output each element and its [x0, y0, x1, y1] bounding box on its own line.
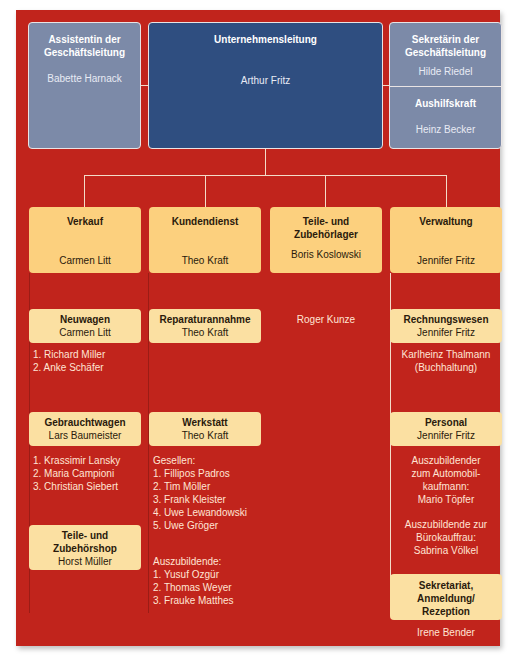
hr-title: Personal — [390, 416, 502, 429]
staff-item: 5. Uwe Gröger — [153, 519, 247, 532]
parts-warehouse-name: Boris Koslowski — [270, 248, 382, 261]
parts-shop-name: Horst Müller — [29, 555, 141, 568]
hr-apprentice-1: Auszubildender zum Automobil- kaufmann: … — [390, 454, 502, 506]
management-box[interactable]: Unternehmensleitung Arthur Fritz — [148, 22, 383, 149]
service-box[interactable]: Kundendienst Theo Kraft — [149, 207, 261, 273]
staff-item: 2. Tim Möller — [153, 480, 247, 493]
parts-warehouse-title-line1: Teile- und — [270, 215, 382, 228]
staff-item: 2. Maria Campioni — [33, 467, 120, 480]
secretary-box: Sekretärin der Geschäftsleitung Hilde Ri… — [389, 22, 502, 149]
secretariat-title-line1: Sekretariat, — [390, 579, 502, 592]
parts-shop-title-line1: Teile- und — [29, 529, 141, 542]
connector-management-down — [265, 148, 266, 175]
text-line: Auszubildende zur — [390, 518, 502, 531]
staff-item: 3. Christian Siebert — [33, 480, 120, 493]
hr-apprentice-2: Auszubildende zur Bürokauffrau: Sabrina … — [390, 518, 502, 557]
connector-sales — [84, 175, 85, 207]
administration-name: Jennifer Fritz — [390, 254, 502, 267]
text-line: Mario Töpfer — [390, 493, 502, 506]
workshop-apprentices: Auszubildende: 1. Yusuf Ozgür 2. Thomas … — [153, 555, 234, 607]
parts-shop-title-line2: Zubehörshop — [29, 542, 141, 555]
accounting-name: Jennifer Fritz — [390, 326, 502, 339]
new-cars-title: Neuwagen — [29, 313, 141, 326]
journeymen-label: Gesellen: — [153, 454, 247, 467]
accounting-staff: Karlheinz Thalmann (Buchhaltung) — [390, 348, 502, 374]
connector-horizontal-departments — [84, 175, 447, 176]
text-line: kaufmann: — [390, 480, 502, 493]
sales-box[interactable]: Verkauf Carmen Litt — [29, 207, 141, 273]
parts-warehouse-box[interactable]: Teile- und Zubehörlager Boris Koslowski — [270, 207, 382, 273]
staff-item: 4. Uwe Lewandowski — [153, 506, 247, 519]
temp-name: Heinz Becker — [390, 123, 501, 136]
used-cars-staff: 1. Krassimir Lansky 2. Maria Campioni 3.… — [33, 454, 120, 493]
used-cars-title: Gebrauchtwagen — [29, 416, 141, 429]
staff-item: 1. Krassimir Lansky — [33, 454, 120, 467]
accounting-title: Rechnungswesen — [390, 313, 502, 326]
new-cars-box[interactable]: Neuwagen Carmen Litt — [29, 309, 141, 343]
text-line: Bürokauffrau: — [390, 531, 502, 544]
secretary-title: Sekretärin der Geschäftsleitung — [390, 33, 501, 59]
temp-title: Aushilfskraft — [390, 97, 501, 110]
accounting-box[interactable]: Rechnungswesen Jennifer Fritz — [390, 309, 502, 343]
assistant-title: Assistentin der Geschäftsleitung — [29, 33, 140, 59]
administration-box[interactable]: Verwaltung Jennifer Fritz — [390, 207, 502, 273]
hr-name: Jennifer Fritz — [390, 429, 502, 442]
parts-warehouse-staff: Roger Kunze — [270, 313, 382, 326]
secretariat-staff: Irene Bender — [390, 626, 502, 639]
staff-item: 1. Yusuf Ozgür — [153, 568, 234, 581]
assistant-box: Assistentin der Geschäftsleitung Babette… — [28, 22, 141, 149]
staff-item: 1. Fillipos Padros — [153, 467, 247, 480]
secretary-divider — [390, 86, 501, 87]
sales-title: Verkauf — [29, 215, 141, 228]
repair-reception-title: Reparaturannahme — [149, 313, 261, 326]
repair-reception-name: Theo Kraft — [149, 326, 261, 339]
assistant-name: Babette Harnack — [29, 72, 140, 85]
staff-item: 3. Frauke Matthes — [153, 594, 234, 607]
staff-item-note: (Buchhaltung) — [390, 361, 502, 374]
service-name: Theo Kraft — [149, 254, 261, 267]
secretariat-box[interactable]: Sekretariat, Anmeldung/ Rezeption — [390, 574, 502, 620]
administration-title: Verwaltung — [390, 215, 502, 228]
text-line: Auszubildender — [390, 454, 502, 467]
text-line: zum Automobil- — [390, 467, 502, 480]
service-title: Kundendienst — [149, 215, 261, 228]
hr-box[interactable]: Personal Jennifer Fritz — [390, 412, 502, 446]
parts-warehouse-title-line2: Zubehörlager — [270, 228, 382, 241]
new-cars-name: Carmen Litt — [29, 326, 141, 339]
secretary-name: Hilde Riedel — [390, 65, 501, 78]
secretariat-title-line3: Rezeption — [390, 605, 502, 618]
connector-parts-warehouse — [325, 175, 326, 207]
staff-item: 1. Richard Miller — [33, 348, 105, 361]
connector-administration — [446, 175, 447, 207]
workshop-journeymen: Gesellen: 1. Fillipos Padros 2. Tim Möll… — [153, 454, 247, 532]
workshop-title: Werkstatt — [149, 416, 261, 429]
used-cars-name: Lars Baumeister — [29, 429, 141, 442]
workshop-name: Theo Kraft — [149, 429, 261, 442]
management-title: Unternehmensleitung — [149, 33, 382, 46]
staff-item: Karlheinz Thalmann — [390, 348, 502, 361]
management-name: Arthur Fritz — [149, 74, 382, 87]
apprentices-label: Auszubildende: — [153, 555, 234, 568]
sales-name: Carmen Litt — [29, 254, 141, 267]
connector-service — [205, 175, 206, 207]
staff-item: 2. Anke Schäfer — [33, 361, 105, 374]
staff-item: Roger Kunze — [270, 313, 382, 326]
new-cars-staff: 1. Richard Miller 2. Anke Schäfer — [33, 348, 105, 374]
used-cars-box[interactable]: Gebrauchtwagen Lars Baumeister — [29, 412, 141, 446]
staff-item: Irene Bender — [390, 626, 502, 639]
staff-item: 3. Frank Kleister — [153, 493, 247, 506]
text-line: Sabrina Völkel — [390, 544, 502, 557]
secretariat-title-line2: Anmeldung/ — [390, 592, 502, 605]
staff-item: 2. Thomas Weyer — [153, 581, 234, 594]
parts-shop-box[interactable]: Teile- und Zubehörshop Horst Müller — [29, 525, 141, 570]
repair-reception-box[interactable]: Reparaturannahme Theo Kraft — [149, 309, 261, 343]
workshop-box[interactable]: Werkstatt Theo Kraft — [149, 412, 261, 446]
